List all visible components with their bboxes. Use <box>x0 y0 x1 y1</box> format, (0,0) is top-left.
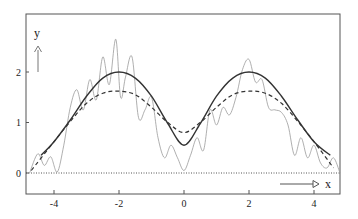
x-axis-ticks: -4-2024 <box>50 190 317 209</box>
x-tick-label: -4 <box>50 198 58 209</box>
y-axis-label: y <box>34 26 40 40</box>
y-tick-label: 2 <box>16 67 21 78</box>
chart: -4-2024 012 y x <box>0 0 358 219</box>
x-tick-label: 2 <box>247 198 252 209</box>
arrow-right-icon <box>313 181 319 188</box>
y-tick-label: 1 <box>16 117 21 128</box>
series-noisy-data <box>30 39 340 173</box>
x-axis-arrow <box>280 181 319 188</box>
x-tick-label: 4 <box>312 198 317 209</box>
x-axis-label: x <box>325 177 331 191</box>
x-tick-label: 0 <box>182 198 187 209</box>
y-tick-label: 0 <box>16 168 21 179</box>
series-smoothed-estimate <box>31 91 333 170</box>
y-axis-ticks: 012 <box>16 67 29 179</box>
y-axis-arrow <box>35 46 42 72</box>
x-tick-label: -2 <box>115 198 123 209</box>
series-true-function <box>41 72 330 155</box>
plot-frame <box>26 14 340 194</box>
